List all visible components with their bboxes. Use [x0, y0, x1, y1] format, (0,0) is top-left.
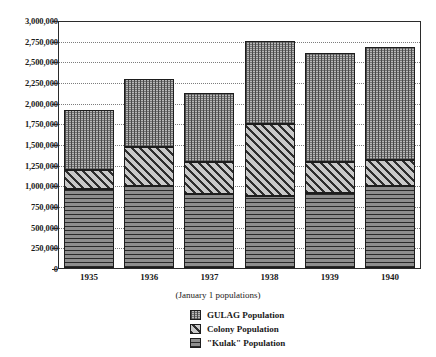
bar-segment: [124, 147, 174, 186]
bar-segment: [245, 124, 295, 196]
bar-segment: [64, 110, 114, 170]
bar-segment: [124, 79, 174, 147]
y-axis-tick-mark: [52, 207, 58, 208]
y-axis-tick-label: 500,000: [2, 223, 58, 233]
bar-segment: [184, 194, 234, 268]
bar-segment: [365, 186, 415, 268]
bar-group: [64, 22, 114, 268]
y-axis-tick-mark: [52, 42, 58, 43]
stacked-bar-chart: 0250,000500,000750,0001,000,0001,250,000…: [0, 0, 436, 357]
y-axis-tick-label: 1,000,000: [2, 181, 58, 191]
chart-subtitle: (January 1 populations): [0, 290, 436, 300]
y-axis-tick-label: 250,000: [2, 243, 58, 253]
bar-segment: [184, 162, 234, 194]
x-axis-tick-label: 1939: [300, 272, 360, 282]
bar-segment: [245, 196, 295, 268]
x-axis-tick-label: 1936: [119, 272, 179, 282]
bar-group: [124, 22, 174, 268]
bar-segment: [64, 189, 114, 268]
y-axis-tick-mark: [52, 21, 58, 22]
legend-label-gulag: GULAG Population: [207, 310, 284, 320]
bar-segment: [64, 170, 114, 190]
x-axis-tick-label: 1935: [59, 272, 119, 282]
y-axis-tick-label: 3,000,000: [2, 16, 58, 26]
y-axis-tick-mark: [52, 248, 58, 249]
y-axis-tick-mark: [52, 83, 58, 84]
y-axis-tick-mark: [52, 269, 58, 270]
bar-group: [184, 22, 234, 268]
legend-item-colony: Colony Population: [190, 323, 285, 335]
bar-segment: [245, 41, 295, 124]
y-axis-tick-label: 0: [2, 264, 58, 274]
y-axis-tick-mark: [52, 145, 58, 146]
bar-group: [365, 22, 415, 268]
y-axis-tick-label: 2,750,000: [2, 37, 58, 47]
y-axis: 0250,000500,000750,0001,000,0001,250,000…: [0, 0, 58, 290]
y-axis-tick-label: 2,000,000: [2, 99, 58, 109]
y-axis-tick-label: 1,500,000: [2, 140, 58, 150]
bar-segment: [305, 162, 355, 192]
legend-label-colony: Colony Population: [207, 324, 279, 334]
bar-segment: [305, 53, 355, 162]
x-axis-labels: 193519361937193819391940: [59, 272, 420, 286]
legend-item-gulag: GULAG Population: [190, 309, 285, 321]
bar-segment: [124, 186, 174, 268]
x-axis-tick-label: 1940: [360, 272, 420, 282]
bar-segment: [305, 193, 355, 268]
y-axis-tick-label: 2,500,000: [2, 57, 58, 67]
y-axis-tick-mark: [52, 166, 58, 167]
y-axis-tick-mark: [52, 124, 58, 125]
y-axis-tick-label: 1,250,000: [2, 161, 58, 171]
dotted-grid-swatch-icon: [190, 310, 201, 320]
y-axis-tick-label: 1,750,000: [2, 119, 58, 129]
x-axis-tick-label: 1937: [179, 272, 239, 282]
bar-segment: [184, 93, 234, 162]
legend-item-kulak: "Kulak" Population: [190, 337, 285, 349]
legend: GULAG Population Colony Population "Kula…: [190, 309, 285, 349]
legend-label-kulak: "Kulak" Population: [207, 338, 285, 348]
bar-group: [305, 22, 355, 268]
horizontal-lines-swatch-icon: [190, 338, 201, 348]
diagonal-hatch-swatch-icon: [190, 324, 201, 334]
y-axis-tick-mark: [52, 104, 58, 105]
x-axis-tick-label: 1938: [240, 272, 300, 282]
y-axis-tick-label: 2,250,000: [2, 78, 58, 88]
bar-segment: [365, 160, 415, 186]
bar-segment: [365, 47, 415, 160]
y-axis-tick-mark: [52, 228, 58, 229]
bars-layer: [59, 22, 420, 268]
y-axis-tick-mark: [52, 62, 58, 63]
y-axis-tick-label: 750,000: [2, 202, 58, 212]
y-axis-tick-mark: [52, 186, 58, 187]
bar-group: [245, 22, 295, 268]
